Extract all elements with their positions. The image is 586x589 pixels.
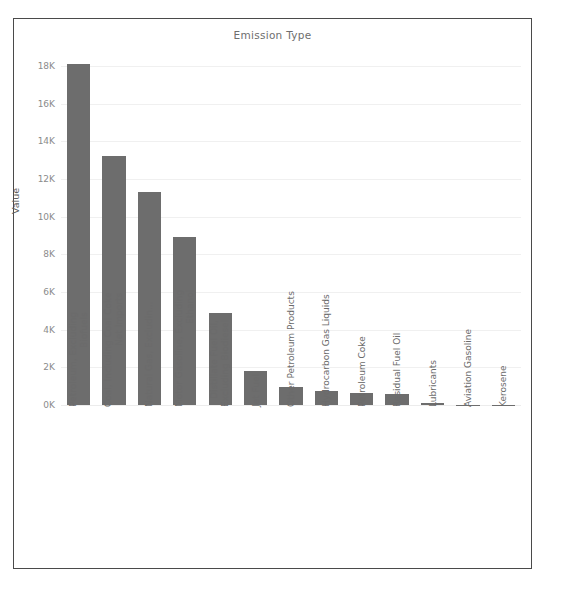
x-axis-label-slot: Residual Fuel Oil [379,407,414,583]
x-axis-label-slot: Petroleum, Excluding Biofuels [61,407,96,583]
y-axis-title: Value [10,188,21,214]
x-axis-tick-label: Jet Fuel [250,374,261,407]
y-axis-tick-label: 2K [43,362,55,372]
bar-slot [238,47,273,405]
y-axis-tick-label: 10K [38,212,55,222]
bar-slot [486,47,521,405]
y-axis-tick-label: 8K [43,249,55,259]
x-axis-label-slot: Kerosene [486,407,521,583]
x-axis-tick-label: Other Petroleum Products [285,291,296,407]
x-axis-tick-label: Motor Gasoline, Excluding Ethanol [174,290,196,407]
x-axis-tick-label: Distillate Fuel Oil, Excluding Biodiesel [209,320,231,407]
y-axis-tick-label: 18K [38,61,55,71]
x-axis-tick-label: Coal, Including Coal Coke Net Imports [103,293,125,407]
bar-slot [415,47,450,405]
x-axis-tick-label: Aviation Gasoline [462,329,473,407]
x-axis-label-slot: Hydrocarbon Gas Liquids [309,407,344,583]
x-axis-tick-label: Residual Fuel Oil [392,333,403,407]
chart-title: Emission Type [14,29,531,41]
x-axis-label-slot: Aviation Gasoline [450,407,485,583]
x-axis-labels: Petroleum, Excluding BiofuelsCoal, Inclu… [61,407,521,583]
x-axis-label-slot: Natural Gas, Excludin... [132,407,167,583]
x-axis-tick-label: Hydrocarbon Gas Liquids [321,294,332,407]
y-axis-tick-label: 6K [43,287,55,297]
x-axis-label-slot: Petroleum Coke [344,407,379,583]
y-axis-tick-label: 12K [38,174,55,184]
y-axis-tick-label: 0K [43,400,55,410]
x-axis-label-slot: Coal, Including Coal Coke Net Imports [96,407,131,583]
chart-screenshot: Emission Type Value 18K16K14K12K10K8K6K4… [0,0,586,589]
x-axis-label-slot: Jet Fuel [238,407,273,583]
x-axis-tick-label: Kerosene [498,366,509,407]
x-axis-tick-label: Petroleum, Excluding Biofuels [68,312,90,407]
x-axis-tick-label: Natural Gas, Excludin... [144,302,155,407]
x-axis-label-slot: Other Petroleum Products [273,407,308,583]
x-axis-label-slot: Lubricants [415,407,450,583]
x-axis-tick-label: Lubricants [427,360,438,407]
chart-frame: Emission Type Value 18K16K14K12K10K8K6K4… [13,18,532,569]
x-axis-label-slot: Motor Gasoline, Excluding Ethanol [167,407,202,583]
y-axis-tick-label: 16K [38,99,55,109]
y-axis-tick-label: 14K [38,136,55,146]
x-axis-tick-label: Petroleum Coke [356,336,367,407]
x-axis-label-slot: Distillate Fuel Oil, Excluding Biodiesel [203,407,238,583]
y-axis-tick-label: 4K [43,325,55,335]
